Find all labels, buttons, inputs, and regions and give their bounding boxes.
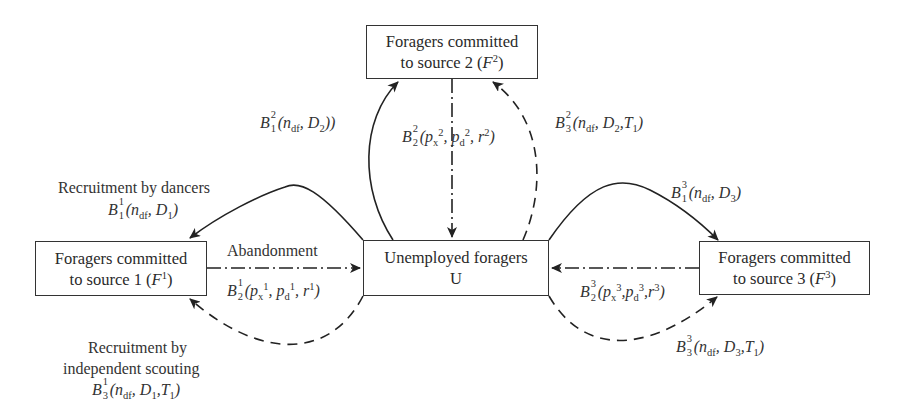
label-b32: B23(ndf, D2,T1) [555,113,643,133]
label-b13: B31(ndf, D3) [671,183,741,203]
label-b22: B22(px2, pd2, r2) [402,127,495,147]
label-b23: B32(px3,pd3,r3) [580,282,665,302]
edge-b12-solid [369,82,398,240]
node-f1: Foragers committed to source 1 (F1) [35,241,207,296]
label-b12: B21(ndf, D2)) [260,113,335,133]
edge-b31-dashed [190,296,363,344]
label-b11-title: Recruitment by dancers [58,178,210,198]
label-b31: B13(ndf, D1,T1) [92,380,180,400]
node-f1-line1: Foragers committed [36,248,206,269]
node-f2-line2: to source 2 (F2) [367,52,537,73]
node-f2-line1: Foragers committed [367,31,537,52]
label-b21-title: Abandonment [227,241,318,261]
node-u-line2: U [364,268,548,289]
edge-b32-dashed [493,82,537,240]
label-b31-title2: independent scouting [63,359,199,379]
node-f2: Foragers committed to source 2 (F2) [366,25,538,79]
node-unemployed: Unemployed foragers U [363,240,549,296]
label-b11: B11(ndf, D1) [108,200,178,220]
label-b21: B12(px1, pd1, r1) [227,281,320,301]
label-b31-title1: Recruitment by [88,338,187,358]
node-u-line1: Unemployed foragers [364,247,548,268]
node-f1-line2: to source 1 (F1) [36,269,206,290]
node-f3-line2: to source 3 (F3) [700,268,869,289]
node-f3: Foragers committed to source 3 (F3) [699,241,870,295]
label-b33: B33(ndf, D3,T1) [676,337,764,357]
node-f3-line1: Foragers committed [700,247,869,268]
edge-b11-solid [190,185,363,240]
